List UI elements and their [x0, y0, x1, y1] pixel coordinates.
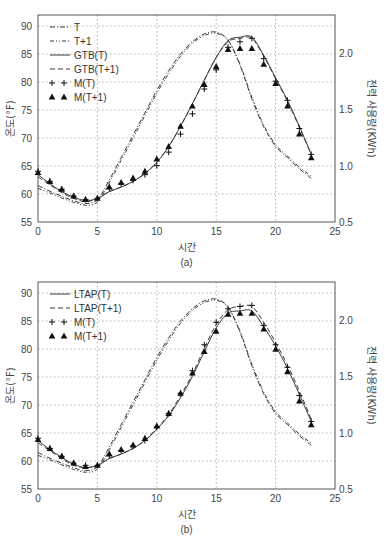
svg-text:20: 20 — [270, 493, 282, 504]
svg-text:60: 60 — [21, 189, 33, 200]
svg-text:75: 75 — [21, 372, 33, 383]
svg-text:85: 85 — [21, 49, 33, 60]
y2-tick-labels: 0.51.01.52.0 — [339, 315, 353, 495]
svg-text:60: 60 — [21, 456, 33, 467]
legend-item: M(T) — [49, 78, 95, 89]
legend-item: M(T+1) — [49, 92, 107, 103]
chart-panel-a: 051015202555606570758085900.51.01.52.0시간… — [0, 0, 385, 270]
svg-text:85: 85 — [21, 316, 33, 327]
svg-text:15: 15 — [211, 226, 223, 237]
svg-text:65: 65 — [21, 161, 33, 172]
svg-text:M(T): M(T) — [74, 78, 95, 89]
chart-panel-b: 051015202555606570758085900.51.01.52.0시간… — [0, 267, 385, 540]
svg-text:70: 70 — [21, 400, 33, 411]
chart-a: 051015202555606570758085900.51.01.52.0시간… — [0, 0, 385, 270]
legend-item: GTB(T+1) — [50, 64, 119, 75]
legend-item: LTAP(T+1) — [50, 303, 122, 314]
svg-text:0: 0 — [35, 226, 41, 237]
svg-text:15: 15 — [211, 493, 223, 504]
svg-text:1.0: 1.0 — [339, 428, 353, 439]
svg-text:10: 10 — [151, 493, 163, 504]
y-axis-label: 온도(°F) — [5, 367, 16, 404]
legend-item: GTB(T) — [50, 50, 107, 61]
svg-text:2.0: 2.0 — [339, 48, 353, 59]
svg-text:LTAP(T): LTAP(T) — [74, 289, 110, 300]
legend-item: M(T+1) — [49, 331, 107, 342]
svg-text:10: 10 — [151, 226, 163, 237]
svg-text:M(T+1): M(T+1) — [74, 331, 107, 342]
svg-text:1.0: 1.0 — [339, 161, 353, 172]
svg-text:80: 80 — [21, 344, 33, 355]
svg-text:T+1: T+1 — [74, 36, 92, 47]
svg-text:2.0: 2.0 — [339, 315, 353, 326]
legend: TT+1GTB(T)GTB(T+1)M(T)M(T+1) — [49, 22, 119, 103]
chart-b: 051015202555606570758085900.51.01.52.0시간… — [0, 267, 385, 540]
svg-text:M(T): M(T) — [74, 317, 95, 328]
legend-item: T+1 — [50, 36, 92, 47]
legend-item: T — [50, 22, 80, 33]
svg-text:80: 80 — [21, 77, 33, 88]
svg-text:GTB(T): GTB(T) — [74, 50, 107, 61]
svg-text:0: 0 — [35, 493, 41, 504]
svg-text:1.5: 1.5 — [339, 371, 353, 382]
svg-text:55: 55 — [21, 484, 33, 495]
svg-text:0.5: 0.5 — [339, 484, 353, 495]
svg-text:0.5: 0.5 — [339, 217, 353, 228]
svg-text:5: 5 — [95, 226, 101, 237]
y-axis-label: 온도(°F) — [5, 100, 16, 137]
y-tick-labels: 5560657075808590 — [21, 288, 33, 495]
svg-text:20: 20 — [270, 226, 282, 237]
svg-text:5: 5 — [95, 493, 101, 504]
x-tick-labels: 0510152025 — [35, 226, 341, 237]
x-axis-label: 시간 — [178, 509, 196, 520]
legend-item: M(T) — [49, 317, 95, 328]
svg-text:90: 90 — [21, 21, 33, 32]
legend-item: LTAP(T) — [50, 289, 110, 300]
svg-text:65: 65 — [21, 428, 33, 439]
y2-axis-label: 전력 사용량(KWh) — [366, 346, 377, 425]
x-axis-label: 시간 — [178, 242, 196, 253]
svg-text:GTB(T+1): GTB(T+1) — [74, 64, 119, 75]
svg-text:1.5: 1.5 — [339, 104, 353, 115]
y2-axis-label: 전력 사용량(KWh) — [366, 79, 377, 158]
svg-text:75: 75 — [21, 105, 33, 116]
svg-text:70: 70 — [21, 133, 33, 144]
svg-text:M(T+1): M(T+1) — [74, 92, 107, 103]
svg-text:T: T — [74, 22, 80, 33]
svg-text:LTAP(T+1): LTAP(T+1) — [74, 303, 122, 314]
y2-tick-labels: 0.51.01.52.0 — [339, 48, 353, 228]
y-tick-labels: 5560657075808590 — [21, 21, 33, 228]
legend: LTAP(T)LTAP(T+1)M(T)M(T+1) — [49, 289, 122, 342]
panel-caption: (b) — [180, 524, 192, 535]
x-tick-labels: 0510152025 — [35, 493, 341, 504]
svg-text:90: 90 — [21, 288, 33, 299]
svg-text:55: 55 — [21, 217, 33, 228]
